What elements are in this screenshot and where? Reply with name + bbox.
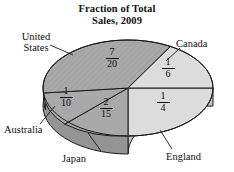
slice-label-australia: Australia [4,124,64,135]
slice-value-canada-denominator: 6 [157,69,179,79]
slice-value-japan: 2 15 [95,97,117,119]
slice-value-united-states-denominator: 20 [101,59,123,69]
slice-value-australia: 1 10 [55,86,77,108]
slice-value-canada-numerator: 1 [157,57,179,67]
slice-value-england: 1 4 [152,91,174,113]
slice-label-united-states: United States [10,31,62,53]
slice-label-japan: Japan [62,153,108,164]
slice-value-australia-numerator: 1 [55,86,77,96]
pie-chart-figure: Fraction of Total Sales, 2009 [0,0,234,172]
slice-value-japan-numerator: 2 [95,97,117,107]
slice-label-united-states-line-1: United [10,31,62,42]
slice-value-england-denominator: 4 [152,103,174,113]
pie-graphic [0,0,234,172]
slice-label-england: England [166,151,222,162]
slice-value-united-states: 7 20 [101,47,123,69]
slice-value-japan-denominator: 15 [95,109,117,119]
slice-label-united-states-line-2: States [10,42,62,53]
slice-value-england-numerator: 1 [152,91,174,101]
slice-value-australia-denominator: 10 [55,98,77,108]
leader-line-england [160,130,172,149]
slice-value-canada: 1 6 [157,57,179,79]
slice-label-canada: Canada [176,38,232,49]
slice-value-united-states-numerator: 7 [101,47,123,57]
